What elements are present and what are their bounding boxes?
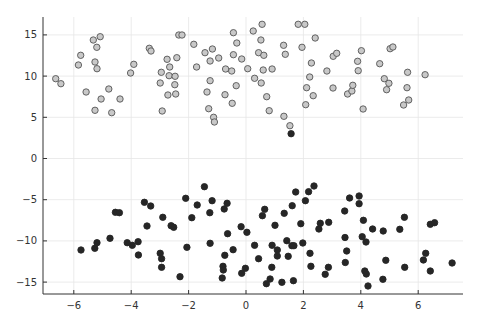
data-point-dark	[274, 253, 280, 259]
data-point-light	[229, 68, 235, 74]
data-point-dark	[285, 253, 291, 259]
data-point-light	[167, 64, 173, 70]
data-point-dark	[201, 184, 207, 190]
data-point-dark	[342, 259, 348, 265]
data-point-light	[358, 48, 364, 54]
y-tick-label: 5	[31, 112, 37, 123]
data-point-light	[94, 66, 100, 72]
data-point-dark	[365, 283, 371, 289]
data-point-dark	[269, 242, 275, 248]
data-point-dark	[369, 226, 375, 232]
data-point-dark	[224, 231, 230, 237]
data-point-dark	[183, 195, 189, 201]
y-tick-label: 0	[31, 153, 37, 164]
data-point-light	[158, 69, 164, 75]
data-point-dark	[284, 238, 290, 244]
data-point-light	[261, 52, 267, 58]
data-point-dark	[300, 240, 306, 246]
data-point-light	[106, 86, 112, 92]
data-point-dark	[255, 256, 261, 262]
data-point-dark	[291, 243, 297, 249]
data-point-light	[165, 92, 171, 98]
data-point-light	[92, 59, 98, 65]
data-point-dark	[274, 247, 280, 253]
data-point-light	[310, 93, 316, 99]
data-point-light	[202, 50, 208, 56]
data-point-dark	[326, 219, 332, 225]
data-point-light	[234, 40, 240, 46]
data-point-light	[216, 55, 222, 61]
data-point-light	[109, 110, 115, 116]
data-point-light	[172, 82, 178, 88]
data-point-light	[280, 42, 286, 48]
data-point-dark	[222, 252, 228, 258]
data-point-dark	[302, 198, 308, 204]
data-point-dark	[184, 244, 190, 250]
data-point-dark	[148, 203, 154, 209]
data-point-light	[386, 80, 392, 86]
data-point-light	[422, 72, 428, 78]
data-point-light	[400, 102, 406, 108]
data-point-dark	[380, 276, 386, 282]
data-point-light	[303, 102, 309, 108]
data-point-dark	[220, 267, 226, 273]
data-point-dark	[401, 214, 407, 220]
data-point-dark	[311, 183, 317, 189]
data-point-dark	[289, 203, 295, 209]
data-point-dark	[259, 213, 265, 219]
data-point-dark	[144, 223, 150, 229]
data-point-light	[206, 106, 212, 112]
data-point-dark	[272, 222, 278, 228]
data-point-light	[211, 119, 217, 125]
data-point-light	[164, 56, 170, 62]
data-point-dark	[78, 247, 84, 253]
data-point-dark	[397, 226, 403, 232]
data-point-light	[377, 61, 383, 67]
data-point-dark	[317, 220, 323, 226]
data-point-dark	[342, 234, 348, 240]
data-point-light	[97, 34, 103, 40]
data-point-dark	[420, 257, 426, 263]
data-point-dark	[194, 202, 200, 208]
data-point-dark	[209, 198, 215, 204]
data-point-light	[406, 97, 412, 103]
data-point-dark	[269, 264, 275, 270]
y-tick-label: −15	[16, 277, 37, 288]
y-tick-label: −10	[16, 235, 37, 246]
data-point-light	[117, 96, 123, 102]
data-point-light	[204, 89, 210, 95]
data-point-dark	[279, 279, 285, 285]
data-point-light	[90, 37, 96, 43]
y-tick-label: 10	[24, 71, 37, 82]
data-point-light	[308, 60, 314, 66]
data-point-light	[98, 96, 104, 102]
data-point-light	[330, 85, 336, 91]
data-point-dark	[346, 195, 352, 201]
data-point-light	[245, 66, 251, 72]
data-point-light	[295, 21, 301, 27]
data-point-dark	[189, 215, 195, 221]
data-point-light	[264, 94, 270, 100]
x-tick-label: 6	[415, 300, 421, 311]
data-point-dark	[242, 265, 248, 271]
data-point-light	[233, 83, 239, 89]
data-point-light	[173, 91, 179, 97]
data-point-light	[350, 82, 356, 88]
data-point-light	[83, 89, 89, 95]
data-point-dark	[158, 264, 164, 270]
data-point-light	[157, 80, 163, 86]
data-point-light	[258, 80, 264, 86]
data-point-light	[191, 41, 197, 47]
x-tick-label: −6	[66, 300, 81, 311]
data-point-light	[148, 48, 154, 54]
data-point-dark	[380, 228, 386, 234]
data-point-dark	[251, 242, 257, 248]
data-point-dark	[160, 214, 166, 220]
data-point-dark	[356, 193, 362, 199]
data-point-dark	[135, 252, 141, 258]
x-tick-label: 0	[243, 300, 249, 311]
data-point-light	[131, 61, 137, 67]
data-point-dark	[263, 281, 269, 287]
data-point-light	[166, 73, 172, 79]
data-point-dark	[423, 250, 429, 256]
